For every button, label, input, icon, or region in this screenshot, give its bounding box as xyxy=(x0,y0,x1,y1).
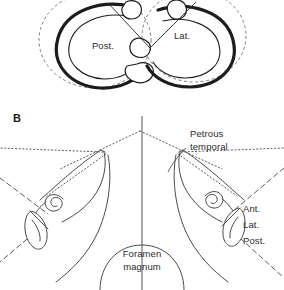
dotted-ray-left-lower xyxy=(47,154,106,196)
petrous-right-upper-border xyxy=(183,150,244,200)
label-petrous-temporal-line1: Petrous xyxy=(190,128,224,139)
lateral-canal-upper-tube xyxy=(167,0,186,19)
cochlea-left xyxy=(45,195,63,212)
label-petrous-temporal-line2: temporal xyxy=(190,141,228,152)
label-canal-lat: Lat. xyxy=(243,219,259,230)
panel-a-group: Post. Lat. xyxy=(39,0,246,88)
dashed-ray-left-upper xyxy=(0,178,48,214)
label-post-canal: Post. xyxy=(92,40,114,51)
label-foramen-magnum-line1: Foramen xyxy=(123,248,162,259)
dotted-ray-left-outer xyxy=(0,148,103,152)
cochlea-right xyxy=(205,192,223,209)
anatomical-figure: Post. Lat. B xyxy=(0,0,284,290)
lateral-canal-cut-end xyxy=(130,38,150,57)
label-foramen-magnum-line2: magnum xyxy=(123,261,161,272)
label-canal-ant: Ant. xyxy=(243,203,260,214)
skull-left-posterior-fossa xyxy=(56,155,110,282)
dotted-ray-left-upper xyxy=(60,131,140,169)
figure-canvas: Post. Lat. B xyxy=(0,0,284,290)
skull-right-posterior-fossa xyxy=(174,155,228,282)
posterior-canal-ampulla xyxy=(125,63,153,83)
dotted-ray-right-lower xyxy=(178,154,237,196)
panel-b-letter: B xyxy=(13,112,21,124)
panel-b-group: B xyxy=(0,112,284,290)
posterior-canal-cut-end xyxy=(122,1,142,19)
lateral-canal-outer xyxy=(147,7,234,87)
petrous-left-upper-border xyxy=(40,150,101,200)
lateral-canal-inner xyxy=(153,19,220,78)
label-canal-post: Post. xyxy=(243,235,265,246)
label-lat-canal: Lat. xyxy=(174,30,190,41)
